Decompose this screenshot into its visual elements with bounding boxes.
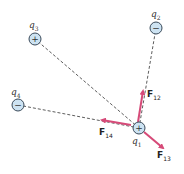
label-q4: q4 <box>11 88 21 99</box>
line-q1-q4 <box>18 105 139 128</box>
label-f12: F12 <box>147 90 161 101</box>
svg-text:−: − <box>152 23 160 33</box>
line-q1-q3 <box>35 39 139 128</box>
label-q1: q1 <box>132 137 142 148</box>
label-f14: F14 <box>99 128 113 139</box>
charge-q2: − <box>150 22 162 34</box>
force-diagram: + − + − <box>0 0 184 174</box>
charge-q1: + <box>133 122 145 134</box>
label-q3: q3 <box>29 21 39 32</box>
charge-q3: + <box>29 33 41 45</box>
line-q1-q2 <box>139 28 156 128</box>
svg-text:+: + <box>135 123 143 133</box>
svg-text:+: + <box>31 34 39 44</box>
label-q2: q2 <box>151 10 161 21</box>
force-arrow-f14 <box>102 120 131 125</box>
label-f13: F13 <box>157 151 171 162</box>
force-arrow-f13 <box>144 132 163 148</box>
svg-text:−: − <box>14 100 22 110</box>
charge-q4: − <box>12 99 24 111</box>
